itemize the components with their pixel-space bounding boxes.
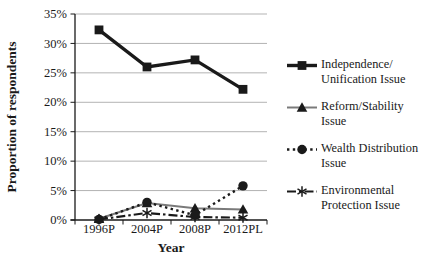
y-tick-label: 30% — [44, 37, 67, 51]
circle-marker — [297, 145, 306, 154]
x-tick-label: 2008P — [179, 222, 211, 236]
square-marker — [95, 25, 104, 34]
series-line — [99, 30, 243, 89]
legend-text: Environmental — [321, 183, 400, 198]
legend-text: Wealth Distribution — [321, 141, 418, 156]
legend-item-reform: Reform/Stability Issue — [286, 99, 430, 129]
square-marker — [239, 85, 248, 94]
legend-text: Issue — [321, 156, 418, 171]
y-axis-title: Proportion of respondents — [4, 41, 19, 192]
legend-text: Unification Issue — [321, 72, 405, 87]
y-tick-label: 0% — [50, 213, 67, 227]
y-tick-label: 25% — [44, 66, 67, 80]
legend-label-wealth: Wealth Distribution Issue — [321, 141, 418, 171]
legend-item-environment: Environmental Protection Issue — [286, 183, 430, 213]
y-tick-label: 5% — [50, 184, 67, 198]
legend-text: Independence/ — [321, 57, 405, 72]
circle-marker — [190, 211, 199, 220]
legend-text: Issue — [321, 114, 404, 129]
y-tick-label: 20% — [44, 95, 67, 109]
series-square — [95, 25, 248, 93]
legend-item-wealth: Wealth Distribution Issue — [286, 141, 430, 171]
asterisk-marker — [142, 208, 151, 218]
legend-text: Protection Issue — [321, 198, 400, 213]
square-marker — [298, 61, 307, 70]
circle-marker — [238, 181, 247, 190]
chart-legend: Independence/ Unification Issue Reform/S… — [286, 57, 430, 225]
legend-label-independence: Independence/ Unification Issue — [321, 57, 405, 87]
legend-swatch-independence — [286, 58, 318, 72]
series-line — [99, 213, 243, 219]
x-axis-title: Year — [158, 240, 185, 255]
circle-marker — [142, 198, 151, 207]
legend-swatch-wealth — [286, 142, 318, 156]
chart-figure: 0%5%10%15%20%25%30%35%1996P2004P2008P201… — [0, 0, 430, 268]
square-marker — [191, 56, 200, 65]
y-tick-label: 35% — [44, 7, 67, 21]
legend-text: Reform/Stability — [321, 99, 404, 114]
series-triangle — [94, 198, 249, 223]
square-marker — [143, 63, 152, 72]
legend-swatch-environment — [286, 184, 318, 198]
y-tick-label: 15% — [44, 125, 67, 139]
legend-label-reform: Reform/Stability Issue — [321, 99, 404, 129]
x-tick-label: 2004P — [131, 222, 163, 236]
legend-swatch-reform — [286, 100, 318, 114]
x-tick-label: 1996P — [83, 222, 115, 236]
legend-item-independence: Independence/ Unification Issue — [286, 57, 430, 87]
y-tick-label: 10% — [44, 154, 67, 168]
legend-label-environment: Environmental Protection Issue — [321, 183, 400, 213]
x-tick-label: 2012PL — [223, 222, 263, 236]
